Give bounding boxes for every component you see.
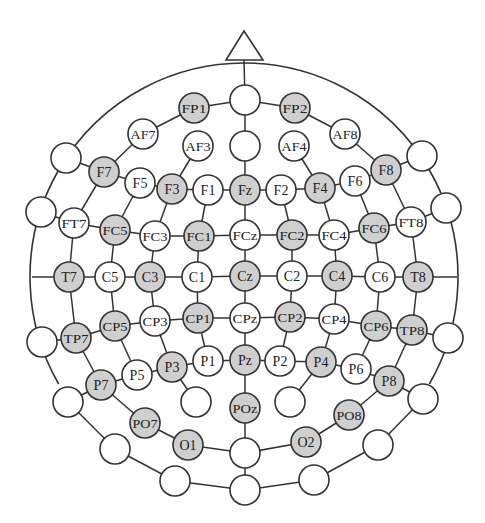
electrode-o2[interactable]: O2: [291, 427, 321, 457]
electrode-circle[interactable]: [230, 131, 260, 161]
electrode-t7[interactable]: T7: [54, 262, 84, 292]
electrode-circle[interactable]: [407, 141, 437, 171]
electrode-r-f10[interactable]: [407, 141, 437, 171]
electrode-circle[interactable]: [27, 327, 57, 357]
electrode-r-o10[interactable]: [299, 465, 329, 495]
electrode-fc6[interactable]: FC6: [359, 213, 389, 243]
electrode-fc1[interactable]: FC1: [184, 221, 214, 251]
electrode-circle[interactable]: [53, 387, 83, 417]
electrode-fz[interactable]: Fz: [230, 175, 260, 205]
electrode-circle[interactable]: [181, 387, 211, 417]
electrode-poz[interactable]: POz: [230, 393, 260, 423]
electrode-f5[interactable]: F5: [125, 168, 155, 198]
electrode-o1[interactable]: O1: [173, 430, 203, 460]
electrode-f3[interactable]: F3: [157, 174, 187, 204]
electrode-p5[interactable]: P5: [122, 360, 152, 390]
electrode-r-po10[interactable]: [363, 430, 393, 460]
electrode-cp3[interactable]: CP3: [140, 306, 170, 336]
electrode-circle[interactable]: [433, 323, 463, 353]
electrode-l-tp9[interactable]: [27, 327, 57, 357]
electrode-f6[interactable]: F6: [340, 166, 370, 196]
electrode-fc4[interactable]: FC4: [319, 220, 349, 250]
electrode-c6[interactable]: C6: [365, 262, 395, 292]
electrode-cp4[interactable]: CP4: [319, 304, 349, 334]
electrode-iz[interactable]: [230, 475, 260, 505]
electrode-af7[interactable]: AF7: [128, 119, 158, 149]
electrode-l-p9[interactable]: [53, 387, 83, 417]
electrode-label: C2: [284, 269, 300, 284]
electrode-cp5[interactable]: CP5: [100, 311, 130, 341]
electrode-c3[interactable]: C3: [135, 262, 165, 292]
electrode-cp6[interactable]: CP6: [361, 311, 391, 341]
electrode-cp2[interactable]: CP2: [275, 302, 305, 332]
electrode-r-ft10[interactable]: [431, 193, 461, 223]
electrode-oz[interactable]: [230, 438, 260, 468]
electrode-l-po9[interactable]: [100, 434, 130, 464]
electrode-tp8[interactable]: TP8: [397, 315, 427, 345]
electrode-t8[interactable]: T8: [403, 262, 433, 292]
electrode-circle[interactable]: [100, 434, 130, 464]
electrode-c1[interactable]: C1: [182, 262, 212, 292]
electrode-circle[interactable]: [431, 193, 461, 223]
electrode-c2[interactable]: C2: [277, 261, 307, 291]
electrode-po8[interactable]: PO8: [334, 400, 364, 430]
electrode-fc2[interactable]: FC2: [277, 220, 307, 250]
electrode-af4[interactable]: AF4: [279, 131, 309, 161]
electrode-circle[interactable]: [408, 384, 438, 414]
electrode-fc5[interactable]: FC5: [100, 215, 130, 245]
electrode-af3[interactable]: AF3: [183, 131, 213, 161]
electrode-tp7[interactable]: TP7: [61, 323, 91, 353]
electrode-circle[interactable]: [299, 465, 329, 495]
electrode-l-f9[interactable]: [51, 143, 81, 173]
electrode-p6[interactable]: P6: [341, 354, 371, 384]
electrode-af8[interactable]: AF8: [330, 119, 360, 149]
electrode-circle[interactable]: [51, 143, 81, 173]
electrode-label: C5: [102, 270, 118, 285]
electrode-f4[interactable]: F4: [305, 173, 335, 203]
head-diagram-svg: FP1FP2AF7AF3AF4AF8F7F5F3F1FzF2F4F6F8FT7F…: [0, 0, 485, 523]
electrode-fp1[interactable]: FP1: [179, 93, 209, 123]
electrode-label: FC5: [103, 223, 128, 238]
electrode-label: FC1: [187, 229, 212, 244]
electrode-label: C1: [189, 270, 205, 285]
electrode-l-o9[interactable]: [160, 466, 190, 496]
electrode-f2[interactable]: F2: [266, 175, 296, 205]
electrode-circle[interactable]: [230, 85, 260, 115]
electrode-p4[interactable]: P4: [306, 347, 336, 377]
electrode-pz[interactable]: Pz: [230, 345, 260, 375]
electrode-p8[interactable]: P8: [374, 366, 404, 396]
electrode-f7[interactable]: F7: [89, 157, 119, 187]
nose-icon: [226, 31, 263, 60]
electrode-po3[interactable]: [181, 387, 211, 417]
electrode-po4[interactable]: [275, 387, 305, 417]
electrode-circle[interactable]: [363, 430, 393, 460]
electrode-ft8[interactable]: FT8: [396, 207, 426, 237]
electrode-label: FC4: [322, 228, 348, 243]
electrode-f1[interactable]: F1: [193, 175, 223, 205]
electrode-nz-top[interactable]: [230, 85, 260, 115]
electrode-f8[interactable]: F8: [371, 155, 401, 185]
electrode-cpz[interactable]: CPz: [230, 303, 260, 333]
electrode-cp1[interactable]: CP1: [183, 303, 213, 333]
electrode-circle[interactable]: [26, 197, 56, 227]
electrode-p1[interactable]: P1: [193, 346, 223, 376]
electrode-afz[interactable]: [230, 131, 260, 161]
electrode-cz[interactable]: Cz: [230, 261, 260, 291]
electrode-ft7[interactable]: FT7: [59, 208, 89, 238]
electrode-p7[interactable]: P7: [86, 370, 116, 400]
electrode-p2[interactable]: P2: [265, 346, 295, 376]
electrode-circle[interactable]: [275, 387, 305, 417]
electrode-p3[interactable]: P3: [157, 352, 187, 382]
electrode-r-p10[interactable]: [408, 384, 438, 414]
electrode-po7[interactable]: PO7: [130, 408, 160, 438]
electrode-circle[interactable]: [230, 438, 260, 468]
electrode-c4[interactable]: C4: [322, 261, 352, 291]
electrode-circle[interactable]: [160, 466, 190, 496]
electrode-fc3[interactable]: FC3: [140, 221, 170, 251]
electrode-r-tp10[interactable]: [433, 323, 463, 353]
electrode-l-ft9[interactable]: [26, 197, 56, 227]
electrode-circle[interactable]: [230, 475, 260, 505]
electrode-fcz[interactable]: FCz: [230, 220, 260, 250]
electrode-fp2[interactable]: FP2: [280, 93, 310, 123]
electrode-c5[interactable]: C5: [95, 262, 125, 292]
